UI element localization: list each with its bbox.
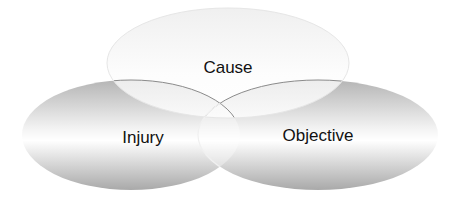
objective-label: Objective: [283, 126, 354, 146]
injury-label: Injury: [122, 128, 164, 148]
cause-label: Cause: [203, 58, 252, 78]
venn-diagram: [0, 0, 455, 207]
